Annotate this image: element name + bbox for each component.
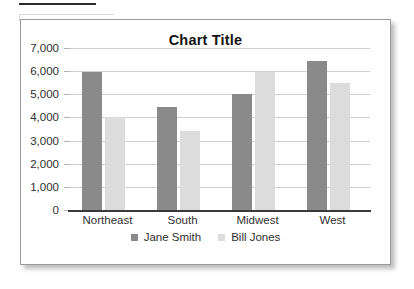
chart-container[interactable]: Chart Title 7,0006,0005,0004,0003,0002,0… (20, 19, 391, 265)
x-axis-line (68, 210, 371, 212)
bar[interactable] (82, 72, 102, 210)
bar[interactable] (157, 107, 177, 210)
y-axis-tick-label: 4,000 (30, 111, 59, 123)
bar-group (145, 48, 220, 210)
legend-label: Bill Jones (231, 231, 280, 243)
bar[interactable] (255, 72, 275, 210)
y-axis-tick-label: 0 (53, 204, 59, 216)
screenshot-root: Chart Title 7,0006,0005,0004,0003,0002,0… (0, 0, 414, 289)
legend-swatch-icon (131, 234, 138, 241)
legend-item[interactable]: Jane Smith (131, 231, 202, 243)
legend-item[interactable]: Bill Jones (218, 231, 280, 243)
bar[interactable] (105, 117, 125, 210)
bar[interactable] (330, 83, 350, 210)
x-axis-category-label: Midwest (220, 214, 295, 226)
y-axis-tick-label: 3,000 (30, 135, 59, 147)
document-rule (19, 3, 96, 5)
y-axis-tick-label: 6,000 (30, 65, 59, 77)
legend-label: Jane Smith (144, 231, 202, 243)
bar[interactable] (232, 94, 252, 210)
bar-group (295, 48, 370, 210)
y-axis-tick-label: 1,000 (30, 181, 59, 193)
bar-group (70, 48, 145, 210)
x-axis-category-label: South (145, 214, 220, 226)
bar-group (220, 48, 295, 210)
chart-legend[interactable]: Jane SmithBill Jones (21, 231, 390, 243)
y-axis-tick-label: 5,000 (30, 88, 59, 100)
bar[interactable] (307, 61, 327, 210)
bar[interactable] (180, 131, 200, 210)
document-rule-faint (19, 14, 114, 15)
x-axis-category-label: West (295, 214, 370, 226)
x-axis-category-label: Northeast (70, 214, 145, 226)
chart-title: Chart Title (21, 32, 390, 48)
y-axis-tick-label: 7,000 (30, 42, 59, 54)
legend-swatch-icon (218, 234, 225, 241)
plot-area: 7,0006,0005,0004,0003,0002,0001,0000 Nor… (70, 48, 370, 210)
y-axis-tick-label: 2,000 (30, 158, 59, 170)
